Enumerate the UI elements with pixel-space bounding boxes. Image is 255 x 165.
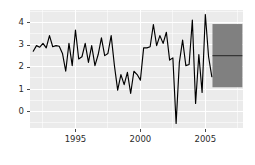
y-tick-mark bbox=[27, 45, 30, 46]
x-tick-label-1995: 1995 bbox=[55, 135, 95, 144]
y-tick-mark bbox=[27, 67, 30, 68]
data-layer bbox=[30, 10, 243, 128]
plot-panel bbox=[30, 10, 243, 128]
y-tick-label-3: 3 bbox=[19, 40, 24, 49]
x-tick-label-2005: 2005 bbox=[185, 135, 225, 144]
series-svg bbox=[30, 10, 243, 128]
x-tick-mark bbox=[140, 129, 141, 132]
y-tick-mark bbox=[27, 22, 30, 23]
observed-series-line bbox=[33, 14, 212, 123]
y-tick-label-0: 0 bbox=[19, 107, 24, 116]
chart-figure: 01234 199520002005 bbox=[0, 0, 255, 165]
x-tick-mark bbox=[205, 129, 206, 132]
y-tick-label-2: 2 bbox=[19, 62, 24, 71]
x-tick-label-2000: 2000 bbox=[120, 135, 160, 144]
y-tick-label-1: 1 bbox=[19, 85, 24, 94]
y-tick-mark bbox=[27, 89, 30, 90]
x-tick-mark bbox=[75, 129, 76, 132]
y-tick-label-4: 4 bbox=[19, 18, 24, 27]
y-tick-mark bbox=[27, 111, 30, 112]
